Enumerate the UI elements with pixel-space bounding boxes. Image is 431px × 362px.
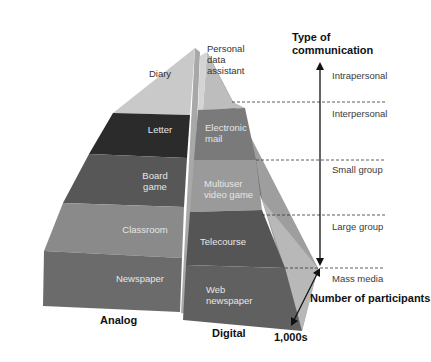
label-diary: Diary bbox=[140, 68, 180, 79]
participants-axis-title: Number of participants bbox=[310, 292, 430, 305]
type-interpersonal: Interpersonal bbox=[332, 108, 387, 119]
label-pda: Personal data assistant bbox=[207, 43, 245, 76]
type-axis-title: Type of communication bbox=[292, 31, 373, 57]
participants-max-label: 1,000s bbox=[274, 331, 308, 344]
type-small-group: Small group bbox=[332, 164, 383, 175]
label-classroom: Classroom bbox=[110, 224, 180, 235]
column-analog: Analog bbox=[100, 314, 137, 327]
band-letter bbox=[89, 113, 190, 158]
type-large-group: Large group bbox=[332, 221, 383, 232]
label-email: Electronic mail bbox=[205, 122, 247, 144]
label-multiuser: Multiuser video game bbox=[204, 178, 253, 200]
arrow-up-icon bbox=[316, 62, 324, 70]
type-mass-media: Mass media bbox=[332, 273, 383, 284]
type-intrapersonal: Intrapersonal bbox=[332, 70, 387, 81]
column-digital: Digital bbox=[212, 327, 246, 340]
arrow-down-icon bbox=[316, 258, 324, 266]
label-letter: Letter bbox=[135, 124, 185, 135]
label-board-game: Board game bbox=[130, 170, 180, 192]
band-diary bbox=[113, 48, 195, 115]
label-telecourse: Telecourse bbox=[200, 236, 246, 247]
label-newspaper: Newspaper bbox=[100, 273, 180, 284]
label-web-newspaper: Web newspaper bbox=[206, 284, 252, 306]
